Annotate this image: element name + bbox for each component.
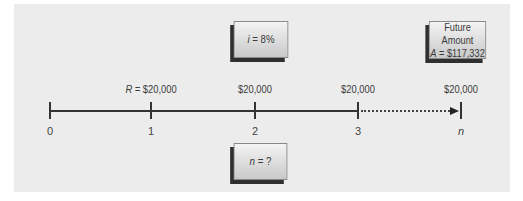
- timeline-dashed-continuation: [361, 110, 453, 112]
- period-label-1: 1: [136, 125, 166, 137]
- tick-3: [357, 102, 359, 119]
- payment-label-2: $20,000: [217, 83, 294, 95]
- payment-label-1: R = $20,000: [113, 83, 190, 95]
- period-label-3: 3: [343, 125, 373, 137]
- future-amount-value: A = $117,332: [430, 47, 485, 60]
- period-label-n: n: [446, 125, 476, 137]
- interest-rate-text: i = 8%: [247, 33, 274, 46]
- tick-0: [49, 102, 51, 119]
- tick-2: [254, 102, 256, 119]
- timeline-axis: [50, 110, 358, 112]
- payment-label-3: $20,000: [320, 83, 397, 95]
- period-label-2: 2: [240, 125, 270, 137]
- future-amount-title: Future Amount: [430, 21, 485, 47]
- tick-1: [150, 102, 152, 119]
- payment-label-n: $20,000: [423, 83, 500, 95]
- tick-n: [460, 102, 462, 119]
- periods-unknown-text: n = ?: [250, 155, 272, 168]
- interest-rate-box: i = 8%: [234, 21, 289, 58]
- future-amount-box: Future Amount A = $117,332: [429, 21, 486, 59]
- period-label-0: 0: [35, 125, 65, 137]
- arrowhead-icon: [450, 107, 459, 115]
- periods-unknown-box: n = ?: [234, 143, 288, 180]
